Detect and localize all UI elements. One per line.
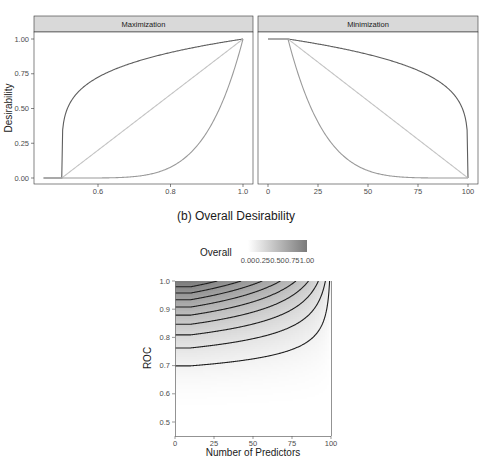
y-tick-label: 0.7 bbox=[160, 361, 170, 370]
y-tick-label: 0.00 bbox=[14, 174, 29, 183]
y-tick-label: 1.00 bbox=[14, 35, 29, 44]
roc-y-axis: 0.50.60.70.80.91.0 bbox=[160, 277, 175, 427]
legend-colorbar bbox=[248, 240, 307, 252]
minimization-panel: Minimization 0255075100 bbox=[258, 16, 478, 196]
x-tick-label: 25 bbox=[314, 187, 322, 196]
maximization-x-axis: 0.60.81.0 bbox=[93, 184, 248, 196]
legend-title: Overall bbox=[200, 247, 232, 258]
legend-tick-label: 0.75 bbox=[285, 256, 300, 265]
minimization-strip-label: Minimization bbox=[347, 20, 389, 29]
y-tick-label: 0.25 bbox=[14, 139, 29, 148]
y-tick-label: 0.5 bbox=[160, 418, 170, 427]
predictors-axis-title: Number of Predictors bbox=[206, 447, 300, 458]
legend-tick-label: 1.00 bbox=[300, 256, 315, 265]
y-tick-label: 0.50 bbox=[14, 104, 29, 113]
legend-tick-label: 0.25 bbox=[255, 256, 270, 265]
y-tick-label: 0.9 bbox=[160, 305, 170, 314]
y-tick-label: 0.75 bbox=[14, 69, 29, 78]
minimization-x-axis: 0255075100 bbox=[266, 184, 474, 196]
y-tick-label: 0.6 bbox=[160, 389, 170, 398]
x-tick-label: 0 bbox=[266, 187, 270, 196]
y-tick-label: 0.8 bbox=[160, 333, 170, 342]
x-tick-label: 0.6 bbox=[93, 187, 103, 196]
maximization-strip-label: Maximization bbox=[122, 20, 166, 29]
figure: Maximization 0.000.250.500.751.00 0.60.8… bbox=[0, 0, 483, 460]
overall-desirability-title: (b) Overall Desirability bbox=[177, 209, 295, 223]
x-tick-label: 100 bbox=[325, 439, 338, 448]
x-tick-label: 0 bbox=[173, 439, 177, 448]
overall-legend: Overall 0.000.250.500.751.00 bbox=[200, 240, 314, 265]
x-tick-label: 100 bbox=[462, 187, 475, 196]
desirability-axis-title: Desirability bbox=[3, 84, 14, 133]
maximization-panel: Maximization 0.000.250.500.751.00 0.60.8… bbox=[14, 16, 253, 196]
legend-tick-labels: 0.000.250.500.751.00 bbox=[241, 256, 315, 265]
maximization-y-axis: 0.000.250.500.751.00 bbox=[14, 35, 34, 183]
overall-contour-plot: 0.50.60.70.80.91.0 0255075100 bbox=[160, 277, 338, 448]
legend-tick-label: 0.00 bbox=[241, 256, 256, 265]
x-tick-label: 0.8 bbox=[165, 187, 175, 196]
x-tick-label: 1.0 bbox=[238, 187, 248, 196]
legend-tick-label: 0.50 bbox=[270, 256, 285, 265]
roc-axis-title: ROC bbox=[142, 347, 153, 369]
y-tick-label: 1.0 bbox=[160, 277, 170, 286]
x-tick-label: 50 bbox=[364, 187, 372, 196]
x-tick-label: 75 bbox=[414, 187, 422, 196]
overall-heatmap bbox=[175, 281, 331, 405]
